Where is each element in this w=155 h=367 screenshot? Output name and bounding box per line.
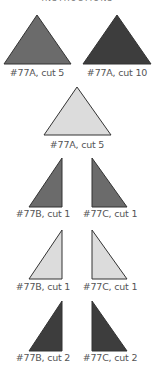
triangle-piece-77a-cut10-dark xyxy=(83,15,151,64)
piece-label: #77B, cut 1 xyxy=(16,208,70,219)
triangle-pieces-diagram xyxy=(0,0,155,367)
piece-label: #77C, cut 1 xyxy=(83,208,138,219)
triangle-piece-77b-cut1-medium xyxy=(29,158,62,207)
piece-label: #77A, cut 5 xyxy=(10,67,64,78)
triangle-piece-77a-cut5-medium xyxy=(4,15,71,64)
triangle-piece-77b-cut2-dark xyxy=(29,301,62,351)
piece-label: #77A, cut 5 xyxy=(50,139,104,150)
triangle-piece-77a-cut5-light xyxy=(44,87,111,135)
piece-label: #77C, cut 2 xyxy=(83,352,138,363)
piece-label: #77A, cut 10 xyxy=(87,67,147,78)
piece-label: #77B, cut 1 xyxy=(16,281,70,292)
triangle-piece-77c-cut2-dark xyxy=(92,301,127,351)
triangle-piece-77b-cut1-light xyxy=(29,230,62,279)
triangle-piece-77c-cut1-light xyxy=(92,230,127,279)
triangle-piece-77c-cut1-medium xyxy=(92,158,127,207)
piece-label: #77B, cut 2 xyxy=(16,352,70,363)
piece-label: #77C, cut 1 xyxy=(83,281,138,292)
